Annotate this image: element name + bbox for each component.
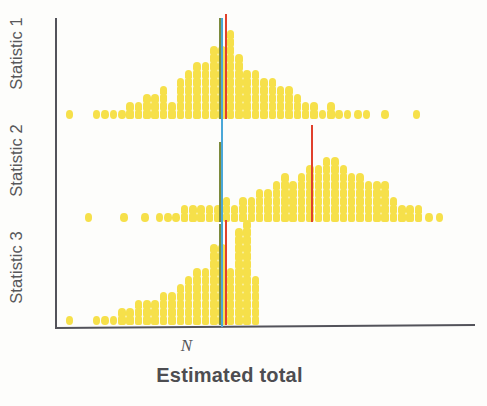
data-dot	[269, 102, 277, 111]
x-axis-title: Estimated total	[0, 364, 487, 387]
data-dot	[185, 86, 193, 95]
data-dot	[298, 189, 306, 198]
data-dot	[210, 46, 218, 55]
data-dot	[210, 78, 218, 87]
data-dot	[227, 268, 235, 277]
data-dot	[302, 110, 310, 119]
mean-line	[225, 220, 227, 325]
data-dot	[365, 197, 373, 206]
data-dot	[160, 94, 168, 103]
data-dot	[365, 181, 373, 190]
data-dot	[185, 110, 193, 119]
data-dot	[436, 213, 444, 222]
data-dot	[135, 300, 143, 309]
data-dot	[298, 197, 306, 206]
data-dot	[264, 189, 272, 198]
data-dot	[210, 54, 218, 63]
data-dot	[269, 78, 277, 87]
data-dot	[243, 300, 251, 309]
data-dot	[315, 181, 323, 190]
data-dot	[227, 102, 235, 111]
data-dot	[348, 197, 356, 206]
data-dot	[193, 62, 201, 71]
data-dot	[206, 205, 214, 214]
data-dot	[151, 94, 159, 103]
data-dot	[260, 78, 268, 87]
data-dot	[243, 70, 251, 79]
data-dot	[252, 316, 260, 325]
data-dot	[193, 70, 201, 79]
data-dot	[143, 110, 151, 119]
data-dot	[141, 213, 149, 222]
data-dot	[93, 316, 101, 325]
data-dot	[252, 300, 260, 309]
data-dot	[243, 252, 251, 261]
data-dot	[66, 110, 74, 119]
data-dot	[235, 236, 243, 245]
data-dot	[298, 173, 306, 182]
data-dot	[256, 189, 264, 198]
data-dot	[160, 308, 168, 317]
panel-statistic-1	[57, 18, 475, 121]
data-dot	[281, 173, 289, 182]
plot-area	[55, 18, 475, 328]
data-dot	[273, 197, 281, 206]
data-dot	[348, 173, 356, 182]
data-dot	[356, 213, 364, 222]
data-dot	[168, 300, 176, 309]
data-dot	[348, 189, 356, 198]
data-dot	[243, 292, 251, 301]
data-dot	[210, 70, 218, 79]
data-dot	[235, 284, 243, 293]
data-dot	[223, 205, 231, 214]
x-tick-label-N: N	[0, 336, 487, 356]
data-dot	[269, 94, 277, 103]
data-dot	[398, 213, 406, 222]
data-dot	[202, 316, 210, 325]
data-dot	[210, 300, 218, 309]
data-dot	[235, 316, 243, 325]
data-dot	[273, 189, 281, 198]
data-dot	[425, 213, 433, 222]
data-dot	[160, 86, 168, 95]
data-dot	[315, 165, 323, 174]
data-dot	[340, 173, 348, 182]
data-dot	[235, 308, 243, 317]
data-dot	[252, 292, 260, 301]
data-dot	[243, 316, 251, 325]
data-dot	[110, 110, 118, 119]
data-dot	[373, 205, 381, 214]
data-dot	[210, 110, 218, 119]
data-dot	[202, 110, 210, 119]
data-dot	[177, 86, 185, 95]
data-dot	[285, 102, 293, 111]
data-dot	[202, 70, 210, 79]
y-label-statistic-3: Statistic 3	[7, 218, 26, 318]
data-dot	[294, 102, 302, 111]
data-dot	[135, 110, 143, 119]
data-dot	[252, 94, 260, 103]
data-dot	[406, 213, 414, 222]
data-dot	[181, 213, 189, 222]
data-dot	[227, 54, 235, 63]
panel-statistic-3	[57, 224, 475, 327]
data-dot	[185, 276, 193, 285]
data-dot	[239, 205, 247, 214]
data-dot	[235, 252, 243, 261]
data-dot	[243, 86, 251, 95]
data-dot	[227, 78, 235, 87]
data-dot	[210, 94, 218, 103]
data-dot	[164, 213, 172, 222]
data-dot	[227, 284, 235, 293]
data-dot	[252, 86, 260, 95]
data-dot	[202, 102, 210, 111]
data-dot	[277, 102, 285, 111]
data-dot	[415, 205, 423, 214]
data-dot	[185, 308, 193, 317]
data-dot	[185, 292, 193, 301]
data-dot	[323, 213, 331, 222]
data-dot	[177, 292, 185, 301]
data-dot	[210, 268, 218, 277]
data-dot	[135, 316, 143, 325]
data-dot	[243, 220, 251, 229]
